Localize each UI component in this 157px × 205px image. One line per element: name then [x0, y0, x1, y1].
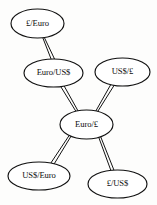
nodes-layer: £/EuroEuro/US$US$/£Euro/£US$/Euro£/US$ — [8, 9, 150, 198]
node-eur-usd[interactable]: Euro/US$ — [24, 59, 83, 87]
node-label-usd-gbp: US$/£ — [112, 66, 134, 76]
node-eur-gbp[interactable]: Euro/£ — [60, 110, 113, 139]
node-usd-eur[interactable]: US$/Euro — [8, 162, 70, 190]
currency-graph: £/EuroEuro/US$US$/£Euro/£US$/Euro£/US$ — [0, 0, 157, 205]
edge-eurusd-eurgbp — [61, 85, 79, 113]
node-label-eur-gbp: Euro/£ — [75, 119, 99, 129]
node-label-gbp-eur: £/Euro — [26, 18, 49, 28]
node-gbp-eur[interactable]: £/Euro — [11, 9, 64, 38]
node-label-usd-eur: US$/Euro — [22, 170, 56, 180]
edge-eurgbp-gbpusd — [99, 136, 114, 171]
edges-layer — [43, 37, 115, 171]
edge-usdgbp-eurgbp — [95, 83, 114, 113]
node-label-eur-usd: Euro/US$ — [37, 67, 71, 77]
edge-gbpeur-eurusd — [43, 37, 55, 60]
node-usd-gbp[interactable]: US$/£ — [95, 58, 150, 86]
node-label-gbp-usd: £/US$ — [107, 178, 129, 188]
node-gbp-usd[interactable]: £/US$ — [88, 170, 147, 198]
edge-eurgbp-usdeur — [51, 135, 71, 164]
diagram-canvas: £/EuroEuro/US$US$/£Euro/£US$/Euro£/US$ — [0, 0, 157, 205]
